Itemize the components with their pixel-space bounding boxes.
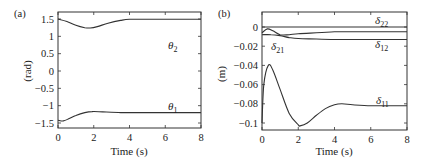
panel-b-x-axis-label: Time (s) [315,145,353,158]
panel-b-chart: (b) 0−0.02−0.04−0.06−0.08−0.1 02468 δ22δ… [215,8,410,158]
panel-a-y-axis-label: (rad) [21,60,34,82]
series-label: δ11 [376,94,389,109]
x-tick-label: 4 [332,134,338,145]
series-label: δ21 [271,40,284,55]
y-tick-label: 1 [49,31,54,42]
y-tick-label: 0 [49,66,54,77]
y-tick-label: −0.5 [35,83,54,94]
series-line-x21 [262,29,407,35]
y-tick-label: 1.5 [41,14,54,25]
series-line-x1 [58,112,201,121]
x-tick-label: 8 [198,132,203,143]
y-tick-label: −0.08 [234,98,258,109]
series-label: θ2 [168,39,177,54]
y-tick-label: −0.1 [239,118,258,129]
panel-a-x-axis: 02468 [55,12,203,143]
panel-b-series-labels: δ22δ21δ12δ11 [271,14,389,109]
x-tick-label: 0 [259,134,264,145]
series-label: δ12 [375,38,388,53]
panel-a-label: (a) [14,8,26,20]
panel-a-x-axis-label: Time (s) [110,145,148,158]
y-tick-label: −1.5 [35,118,54,129]
y-tick-label: −1 [43,100,54,111]
panel-b-series [262,27,407,126]
x-tick-label: 8 [404,134,409,145]
x-tick-label: 6 [163,132,168,143]
panel-a-plot-frame [58,12,201,128]
figure: (a) 1.510.50−0.5−1−1.5 02468 θ2θ1 Time (… [0,0,426,165]
panel-b-label: (b) [218,8,231,20]
x-tick-label: 4 [127,132,133,143]
y-tick-label: 0.5 [41,48,54,59]
y-tick-label: −0.06 [234,79,258,90]
y-tick-label: 0 [253,22,258,33]
panel-a-series [58,19,201,121]
panel-a-chart: (a) 1.510.50−0.5−1−1.5 02468 θ2θ1 Time (… [14,8,204,158]
series-line-x11 [262,65,407,127]
x-tick-label: 6 [368,134,373,145]
x-tick-label: 2 [296,134,301,145]
y-tick-label: −0.02 [234,41,258,52]
panel-a-series-labels: θ2θ1 [168,39,177,115]
y-tick-label: −0.04 [234,60,259,71]
x-tick-label: 2 [91,132,96,143]
panel-b-y-axis-label: (m) [215,66,228,82]
x-tick-label: 0 [55,132,60,143]
panel-b-plot-frame [262,12,407,130]
series-line-x2 [58,19,201,28]
